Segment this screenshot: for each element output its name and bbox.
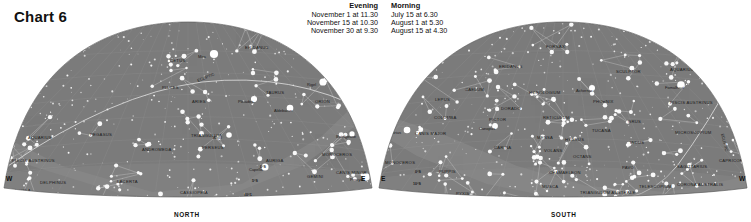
- constellation-label: COLUMBA: [434, 115, 456, 120]
- constellation-label: VOLANS: [544, 148, 563, 153]
- south-label: SOUTH: [551, 211, 576, 218]
- constellation-label: ARIES: [192, 99, 206, 104]
- constellation-label: TRIANGULUM AUSTRALE: [580, 190, 635, 195]
- constellation-label: LEPUS: [435, 97, 450, 102]
- north-hemisphere-map: CETUSERIDANUSPISCESARIESTAURUSORIONPEGAS…: [2, 16, 374, 204]
- star-label: Mira: [198, 54, 207, 59]
- constellation-label: ERIDANUS: [499, 64, 523, 69]
- north-map-cardinal-west: W: [6, 175, 12, 182]
- constellation-label: PAVO: [622, 165, 635, 170]
- north-label: NORTH: [174, 211, 200, 218]
- constellation-label: CAPRICORNUS: [719, 158, 749, 163]
- constellation-label: MONOCEROS: [385, 160, 415, 165]
- constellation-label: PERSEUS: [202, 145, 224, 150]
- star-label: Pleiades: [238, 99, 253, 104]
- constellation-label: PUPPIS: [439, 169, 456, 174]
- north-map-cardinal-east: E: [361, 175, 365, 182]
- constellation-label: CORONA AUSTRALIS: [677, 182, 723, 187]
- constellation-label: MENSA: [537, 135, 553, 140]
- constellation-label: LACERTA: [117, 179, 138, 184]
- south-map-cardinal-east: E: [381, 175, 385, 182]
- constellation-label: PEGASUS: [90, 132, 112, 137]
- constellation-label: DELPHINUS: [40, 180, 66, 185]
- constellation-label: CETUS: [170, 58, 185, 63]
- south-sky-dome: FORNAXERIDANUSSCULPTORAQUARIUSCAELUMHORO…: [377, 16, 749, 204]
- constellation-label: DORADO: [501, 106, 521, 111]
- declination-label: 10°S: [413, 182, 421, 186]
- constellation-label: VELA: [489, 195, 501, 200]
- star-label: Rigel: [307, 82, 316, 87]
- constellation-label: AQUARIUS: [28, 135, 52, 140]
- constellation-label: SAGITTARIUS: [677, 164, 707, 169]
- constellation-label: TUCANA: [592, 128, 611, 133]
- star-label: Algol: [213, 135, 222, 140]
- constellation-label: PISCIS AUSTRINUS: [12, 158, 55, 163]
- constellation-label: CYGNUS: [97, 199, 116, 204]
- star-label: Canopus: [479, 126, 495, 131]
- constellation-label: MICROSCOPIUM: [675, 130, 712, 135]
- constellation-label: CAELUM: [465, 87, 484, 92]
- constellation-label: AURIGA: [266, 158, 284, 163]
- star-label: Aldebaran: [274, 108, 292, 113]
- constellation-label: HYDRUS: [565, 137, 584, 142]
- constellation-label: PICTOR: [489, 117, 506, 122]
- constellation-label: PISCES: [162, 85, 179, 90]
- constellation-label: MUSCA: [542, 184, 558, 189]
- north-sky-dome: CETUSERIDANUSPISCESARIESTAURUSORIONPEGAS…: [2, 16, 374, 204]
- constellation-label: CANIS MAJOR: [415, 131, 446, 136]
- constellation-label: SCULPTOR: [616, 69, 641, 74]
- star-label: Fomalhaut: [665, 85, 685, 90]
- constellation-label: CARINA: [494, 145, 511, 150]
- declination-label: 0°S: [415, 170, 421, 174]
- constellation-label: MONOCEROS: [322, 152, 352, 157]
- constellation-label: PISCIS AUSTRINUS: [670, 100, 713, 105]
- constellation-label: OCTANS: [573, 154, 592, 159]
- constellation-label: ERIDANUS: [245, 45, 269, 50]
- star-chart-page: Chart 6 Evening November 1 at 11.30 Nove…: [0, 0, 751, 222]
- constellation-label: FORNAX: [546, 44, 565, 49]
- constellation-label: TAURUS: [266, 90, 284, 95]
- constellation-label: TELESCOPIUM: [639, 184, 672, 189]
- constellation-label: GRUS: [628, 119, 641, 124]
- constellation-label: CHAMAELEON: [549, 170, 581, 175]
- constellation-label: INDUS: [630, 140, 644, 145]
- south-hemisphere-map: FORNAXERIDANUSSCULPTORAQUARIUSCAELUMHORO…: [377, 16, 749, 204]
- star-label: Achernar: [576, 88, 593, 93]
- constellation-label: PHOENIX: [593, 99, 614, 104]
- declination-label: 5°S: [252, 179, 258, 183]
- constellation-label: ORION: [315, 99, 330, 104]
- star-label: Acrux: [549, 200, 559, 204]
- declination-label: 20°S: [411, 194, 419, 198]
- constellation-label: RETICULUM: [543, 115, 570, 120]
- star-label: Betelgeuse: [336, 134, 357, 139]
- constellation-label: HOROLOGIUM: [529, 90, 561, 95]
- south-map-cardinal-west: W: [739, 175, 745, 182]
- constellation-label: CASSIOPEIA: [180, 190, 208, 195]
- constellation-label: GEMINI: [307, 174, 323, 179]
- declination-label: 0°S: [260, 165, 266, 169]
- constellation-label: ANDROMEDA: [142, 147, 171, 152]
- constellation-label: ARA: [621, 197, 630, 202]
